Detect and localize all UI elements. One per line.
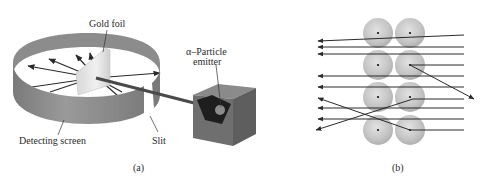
particle-paths: [316, 35, 474, 130]
label-emitter-line2: emitter: [193, 56, 222, 67]
label-slit: Slit: [152, 135, 166, 146]
caption-b: (b): [392, 162, 404, 174]
panel-a: Gold foil α–Particle emitter Detecting s…: [13, 18, 256, 174]
caption-a: (a): [133, 162, 144, 174]
rutherford-diagram: Gold foil α–Particle emitter Detecting s…: [0, 0, 487, 182]
alpha-emitter: [193, 84, 256, 146]
label-detecting-screen: Detecting screen: [19, 135, 86, 146]
label-gold-foil: Gold foil: [89, 18, 126, 29]
panel-b: (b): [316, 18, 474, 174]
